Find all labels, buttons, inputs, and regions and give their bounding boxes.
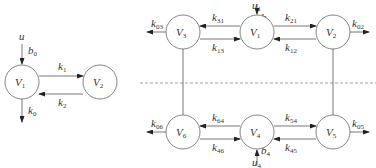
right-six-compartment-model: u1 b1 b4 u4 V3 V1 V2 V6 V4 V5 k31 k13 k2… [140,0,376,168]
edge-label-k21: k21 [285,11,297,25]
edge-label-k54: k54 [285,111,297,125]
edge-label-k46: k46 [212,141,224,155]
edge-label-k13: k13 [212,41,224,55]
edge-label-k12: k12 [285,41,297,55]
outflow-label-k0: k0 [28,104,37,118]
outflow-label-k02: k02 [352,17,364,31]
edge-label-k2: k2 [58,96,67,110]
outflow-label-k05: k05 [352,117,364,131]
outflow-label-k03: k03 [151,17,163,31]
edge-label-k1: k1 [58,60,67,74]
left-two-compartment-model: u b0 V1 V2 k1 k2 k0 [5,30,117,122]
input-label-u: u [19,30,25,42]
input-label-u4: u4 [252,156,262,168]
input-gain-b0: b0 [28,44,38,58]
compartment-diagrams: u b0 V1 V2 k1 k2 k0 u1 b1 b4 u4 V3 [0,0,376,168]
edge-label-k45: k45 [285,141,297,155]
edge-label-k31: k31 [212,11,224,25]
outflow-label-k06: k06 [151,117,163,131]
edge-label-k64: k64 [212,111,224,125]
